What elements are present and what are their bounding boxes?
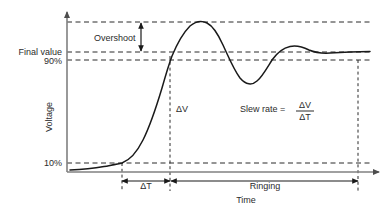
x-axis-label: Time	[236, 195, 256, 205]
delta-v-label: ΔV	[176, 104, 188, 114]
y-axis-label: Voltage	[44, 102, 54, 132]
ringing-label: Ringing	[250, 181, 281, 191]
slew-rate-denominator: ΔT	[299, 112, 311, 122]
y-tick-90-percent: 90%	[44, 56, 62, 66]
y-tick-10-percent: 10%	[44, 158, 62, 168]
slew-rate-label: Slew rate =	[240, 104, 285, 114]
delta-t-label: ΔT	[140, 181, 152, 191]
slew-rate-numerator: ΔV	[299, 100, 311, 110]
figure-background	[0, 0, 387, 216]
overshoot-label: Overshoot	[94, 33, 136, 43]
step-response-figure: Final value 90% 10% Voltage Time Oversho…	[0, 0, 387, 216]
figure-page: Final value 90% 10% Voltage Time Oversho…	[0, 0, 387, 216]
